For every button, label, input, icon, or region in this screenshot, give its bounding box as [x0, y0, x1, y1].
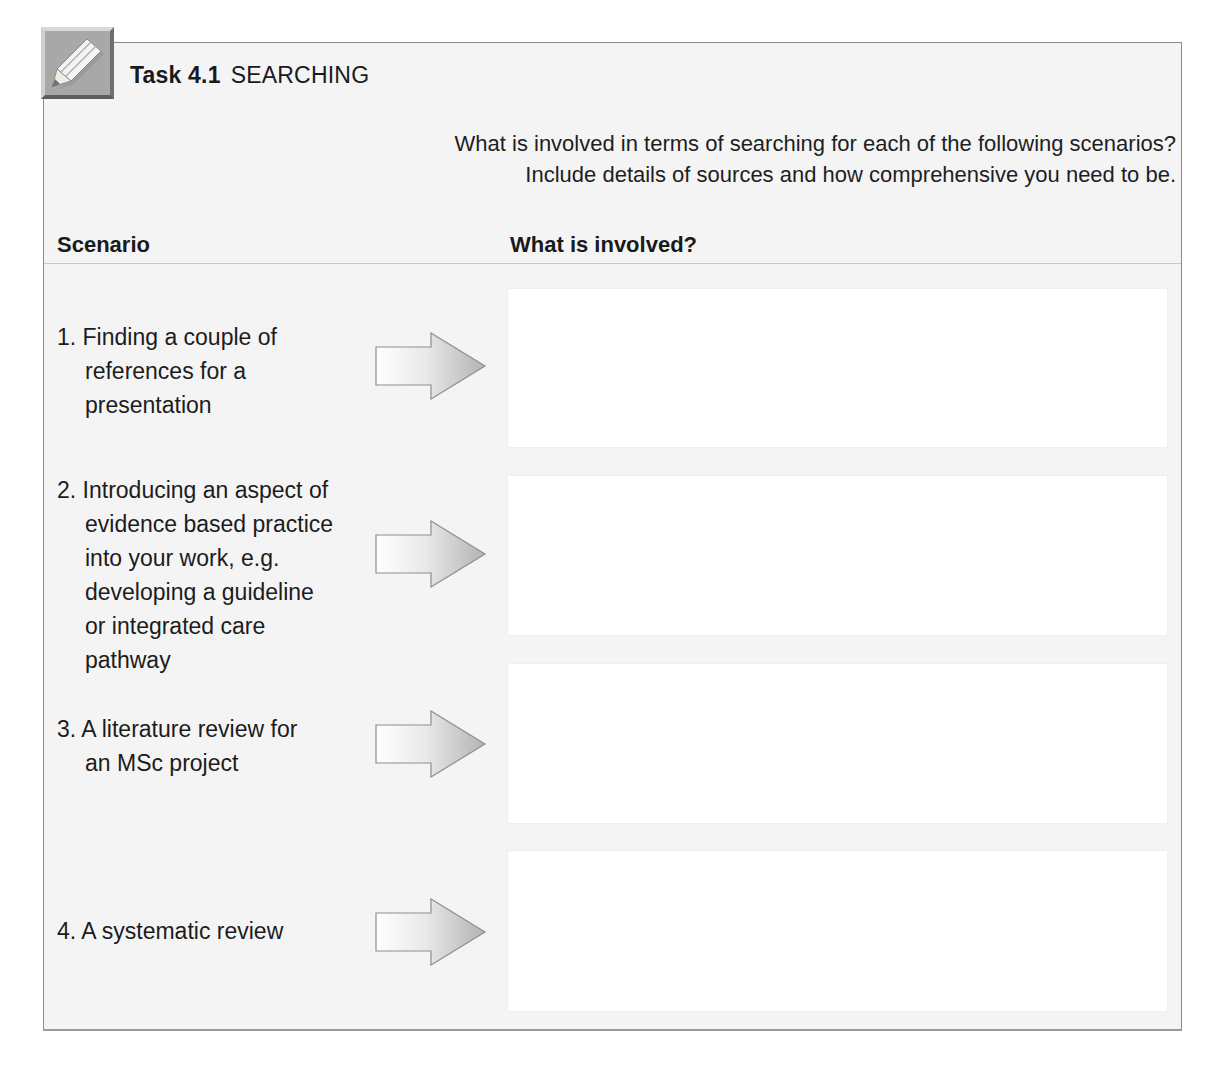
arrow-right-icon — [375, 898, 487, 966]
scenario-3-line-1: 3. A literature review for — [57, 712, 297, 746]
scenario-2-line-1: 2. Introducing an aspect of — [57, 473, 333, 507]
scenario-4-line-1: 4. A systematic review — [57, 914, 283, 948]
scenario-4: 4. A systematic review — [57, 914, 283, 948]
scenario-1-line-3: presentation — [57, 388, 277, 422]
scenario-3: 3. A literature review for an MSc projec… — [57, 712, 297, 780]
task-icon-badge — [41, 27, 114, 99]
column-header-scenario: Scenario — [57, 230, 150, 260]
arrow-right-icon — [375, 520, 487, 588]
scenario-1-line-2: references for a — [57, 354, 277, 388]
arrow-right-icon — [375, 710, 487, 778]
arrow-right-icon — [375, 332, 487, 400]
scenario-3-line-2: an MSc project — [57, 746, 297, 780]
task-instructions: What is involved in terms of searching f… — [336, 128, 1176, 190]
answer-box-2[interactable] — [507, 475, 1168, 636]
scenario-1-line-1: 1. Finding a couple of — [57, 320, 277, 354]
task-title: Task 4.1SEARCHING — [130, 60, 369, 90]
scenario-2-line-5: or integrated care — [57, 609, 333, 643]
scenario-2-line-2: evidence based practice — [57, 507, 333, 541]
scenario-2-line-6: pathway — [57, 643, 333, 677]
answer-box-3[interactable] — [507, 663, 1168, 824]
instruction-line-2: Include details of sources and how compr… — [336, 159, 1176, 190]
scenario-2-line-3: into your work, e.g. — [57, 541, 333, 575]
column-header-involved: What is involved? — [510, 230, 697, 260]
scenario-2-line-4: developing a guideline — [57, 575, 333, 609]
header-divider — [44, 263, 1181, 264]
task-number: Task 4.1 — [130, 62, 221, 88]
panel-shadow — [43, 1029, 1182, 1031]
pencil-icon — [47, 33, 109, 95]
instruction-line-1: What is involved in terms of searching f… — [336, 128, 1176, 159]
scenario-2: 2. Introducing an aspect of evidence bas… — [57, 473, 333, 677]
task-name: SEARCHING — [231, 62, 370, 88]
scenario-1: 1. Finding a couple of references for a … — [57, 320, 277, 422]
answer-box-4[interactable] — [507, 850, 1168, 1012]
answer-box-1[interactable] — [507, 288, 1168, 448]
